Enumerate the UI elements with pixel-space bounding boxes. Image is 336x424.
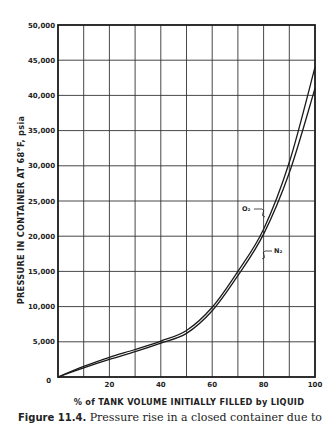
x-tick-label: 40 <box>156 381 166 389</box>
x-tick-label: 100 <box>308 381 323 389</box>
y-tick-label: 10,000 <box>28 303 55 311</box>
x-axis-title: % of TANK VOLUME INITIALLY FILLED by LIQ… <box>74 397 305 407</box>
figure-caption: Figure 11.4. Pressure rise in a closed c… <box>18 412 336 424</box>
y-tick-label: 40,000 <box>28 92 55 100</box>
y-tick-label: 20,000 <box>28 233 55 241</box>
caption-prefix: Figure 11.4. <box>18 412 86 423</box>
y-tick-label: 50,000 <box>28 22 55 30</box>
y-axis-ticks: 5,00010,00015,00020,00025,00030,00035,00… <box>28 22 55 347</box>
chart: 5,00010,00015,00020,00025,00030,00035,00… <box>0 0 336 424</box>
y-tick-label: 30,000 <box>28 162 55 170</box>
y-tick-label: 25,000 <box>28 198 55 206</box>
caption-text: Pressure rise in a closed container due … <box>90 412 322 424</box>
n2-annotation: N₂ <box>262 247 282 259</box>
y-tick-label: 5,000 <box>33 338 55 346</box>
y-tick-label: 35,000 <box>28 127 55 135</box>
x-tick-label: 80 <box>259 381 269 389</box>
n2-label: N₂ <box>274 247 282 255</box>
y-tick-zero: 0 <box>46 377 51 385</box>
x-tick-label: 20 <box>105 381 115 389</box>
y-tick-label: 45,000 <box>28 57 55 65</box>
x-axis-ticks: 20406080100 <box>105 381 323 389</box>
o2-annotation: O₂ <box>242 205 265 217</box>
y-axis-title: PRESSURE IN CONTAINER AT 68°F, psia <box>16 116 26 305</box>
x-tick-label: 60 <box>207 381 217 389</box>
y-tick-label: 15,000 <box>28 268 55 276</box>
o2-label: O₂ <box>242 205 251 213</box>
grid-lines <box>58 25 315 377</box>
